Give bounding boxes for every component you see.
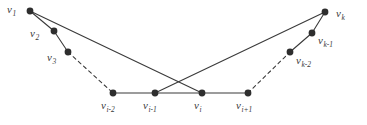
- label-subscript: k-1: [323, 40, 333, 49]
- edges-layer: [30, 11, 325, 93]
- vertex-label-vi+1: vi+1: [236, 100, 252, 111]
- vertex-label-vi-1: vi-1: [143, 100, 156, 111]
- edge-vk-2-vk-1: [290, 33, 312, 52]
- label-subscript: 2: [35, 33, 39, 42]
- label-subscript: k-2: [301, 60, 311, 69]
- edge-v3-vi-2: [68, 52, 113, 93]
- vertices-layer: [27, 8, 329, 97]
- vertex-vi-1: [152, 90, 159, 97]
- label-subscript: k: [341, 13, 344, 22]
- vertex-label-v3: v3: [47, 52, 56, 63]
- vertex-v3: [65, 49, 72, 56]
- vertex-vk-2: [287, 49, 294, 56]
- vertex-label-v1: v1: [7, 4, 16, 15]
- label-subscript: 1: [12, 9, 16, 18]
- vertex-label-vk: vk: [336, 8, 344, 19]
- edge-vi+1-vk-2: [248, 52, 290, 93]
- vertex-label-vi: vi: [194, 100, 201, 111]
- label-subscript: i+1: [241, 105, 252, 114]
- vertex-label-vk-1: vk-1: [318, 35, 333, 46]
- vertex-label-vi-2: vi-2: [101, 100, 114, 111]
- vertex-vk-1: [309, 30, 316, 37]
- vertex-v2: [51, 28, 58, 35]
- vertex-label-v2: v2: [30, 28, 39, 39]
- edge-vk-vi-1: [155, 12, 325, 93]
- edge-v2-v3: [54, 31, 68, 52]
- label-subscript: i-2: [106, 105, 114, 114]
- vertex-v1: [27, 8, 34, 15]
- vertex-vi+1: [245, 90, 252, 97]
- vertex-label-vk-2: vk-2: [296, 55, 311, 66]
- graph-figure: v1v2v3vi-2vi-1vivi+1vk-2vk-1vk: [0, 0, 367, 125]
- vertex-vi-2: [110, 90, 117, 97]
- label-subscript: i-1: [148, 105, 156, 114]
- vertex-vi: [199, 90, 206, 97]
- label-subscript: 3: [52, 57, 56, 66]
- vertex-vk: [322, 9, 329, 16]
